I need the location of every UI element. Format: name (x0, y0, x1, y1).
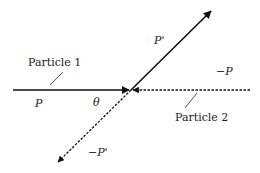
p-label: P (34, 97, 43, 110)
particle1-label: Particle 1 (28, 56, 81, 69)
p-prime-label: P' (153, 34, 164, 47)
particle2-label: Particle 2 (175, 111, 228, 124)
particle2-leader-line (185, 93, 197, 108)
theta-label: θ (93, 96, 100, 109)
particle1-leader-line (50, 72, 63, 85)
vector-p-prime-arrow (131, 11, 211, 90)
neg-p-label: −P (216, 65, 233, 78)
neg-p-prime-label: −P' (88, 146, 108, 159)
momentum-collision-diagram: Particle 1 Particle 2 P θ P' −P −P' (0, 0, 260, 173)
